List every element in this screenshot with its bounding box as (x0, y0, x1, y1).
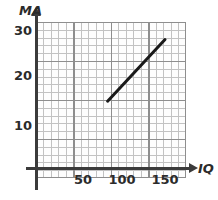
chart-data-layer (0, 0, 218, 200)
chart-figure: MA IQ 30 20 10 50 100 150 (0, 0, 218, 200)
data-series-line (108, 40, 165, 102)
